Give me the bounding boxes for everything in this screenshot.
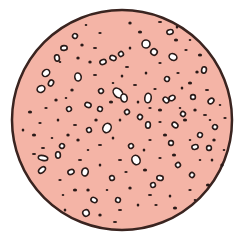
- particle-dot: [125, 66, 129, 68]
- particle-dot: [113, 221, 117, 223]
- particle-dot: [58, 179, 61, 181]
- particle-dot: [73, 124, 77, 126]
- particle-dot: [98, 144, 102, 146]
- particle-dot: [220, 163, 223, 166]
- particle-dot: [174, 38, 178, 41]
- pore: [74, 73, 82, 82]
- pore: [109, 175, 115, 181]
- particle-dot: [57, 118, 60, 121]
- pore: [206, 145, 211, 150]
- particle-dot: [176, 25, 179, 28]
- pore: [191, 95, 196, 100]
- pore: [201, 66, 207, 73]
- particle-dot: [148, 139, 151, 141]
- particle-dot: [78, 159, 82, 161]
- particle-dot: [51, 137, 54, 139]
- particle-dot: [118, 209, 122, 211]
- particle-dot: [143, 168, 147, 171]
- particle-dot: [137, 203, 140, 206]
- particle-dot: [172, 153, 176, 156]
- particle-dot: [59, 61, 62, 63]
- pore: [97, 106, 103, 112]
- particle-dot: [212, 138, 215, 141]
- particle-dot: [163, 133, 167, 136]
- particle-dot: [32, 153, 36, 155]
- particle-dot: [206, 183, 210, 186]
- pore: [115, 197, 121, 203]
- particle-dot: [85, 24, 88, 26]
- particle-dot: [154, 204, 157, 206]
- pore: [197, 132, 203, 138]
- particle-dot: [195, 70, 198, 73]
- porous-cross-section-diagram: [0, 0, 247, 244]
- particle-dot: [188, 189, 191, 191]
- particle-dot: [128, 186, 131, 189]
- particle-dot: [44, 107, 47, 109]
- particle-dot: [129, 46, 132, 49]
- particle-dot: [64, 208, 67, 211]
- pore: [146, 122, 151, 128]
- particle-dot: [94, 118, 97, 121]
- particle-dot: [183, 118, 187, 121]
- particle-dot: [209, 119, 212, 121]
- particle-dot: [158, 157, 161, 159]
- particle-dot: [158, 108, 162, 111]
- particle-dot: [32, 133, 36, 136]
- pore: [164, 76, 170, 82]
- particle-dot: [98, 32, 101, 34]
- particle-dot: [158, 62, 161, 64]
- particle-dot: [199, 159, 202, 161]
- particle-dot: [169, 194, 172, 197]
- particle-dot: [80, 43, 83, 46]
- particle-dot: [76, 56, 79, 59]
- particle-dot: [86, 188, 89, 191]
- particle-dot: [121, 74, 124, 77]
- particle-dot: [189, 139, 192, 141]
- particle-dot: [93, 47, 97, 49]
- particle-dot: [145, 71, 148, 74]
- particle-dot: [76, 138, 79, 141]
- particle-dot: [99, 163, 102, 166]
- pore: [66, 106, 72, 112]
- particle-dot: [124, 171, 127, 173]
- particle-dot: [158, 21, 162, 23]
- particle-dot: [41, 147, 45, 149]
- particle-dot: [188, 81, 192, 84]
- pore: [157, 175, 164, 180]
- particle-dot: [38, 122, 41, 124]
- particle-dot: [88, 60, 91, 63]
- particle-dot: [138, 30, 142, 33]
- pore: [54, 54, 60, 61]
- particle-dot: [112, 136, 115, 139]
- particle-dot: [66, 133, 69, 136]
- figure: Circular cross-section with scattered po…: [0, 0, 247, 244]
- particle-dot: [148, 194, 152, 196]
- particle-dot: [70, 88, 73, 91]
- particle-dot: [223, 149, 226, 151]
- particle-dot: [158, 121, 161, 123]
- pore: [61, 45, 68, 50]
- particle-dot: [22, 128, 25, 131]
- pore: [142, 40, 150, 48]
- particle-dot: [73, 188, 77, 191]
- particle-dot: [98, 213, 101, 216]
- particle-dot: [106, 189, 109, 191]
- pore: [120, 94, 127, 103]
- pore: [55, 152, 60, 159]
- particle-dot: [118, 159, 122, 161]
- particle-dot: [128, 21, 131, 24]
- particle-dot: [153, 88, 156, 90]
- particle-dot: [87, 149, 90, 151]
- pore: [168, 140, 173, 145]
- particle-dot: [193, 108, 196, 111]
- cross-section-disc: [12, 10, 232, 230]
- particle-dot: [203, 114, 207, 116]
- pore: [150, 182, 156, 188]
- particle-dot: [137, 100, 140, 103]
- particle-dot: [198, 53, 202, 56]
- pore: [191, 144, 198, 150]
- particle-dot: [211, 158, 214, 161]
- particle-dot: [65, 97, 68, 99]
- particle-dot: [143, 148, 146, 151]
- pore: [86, 127, 92, 133]
